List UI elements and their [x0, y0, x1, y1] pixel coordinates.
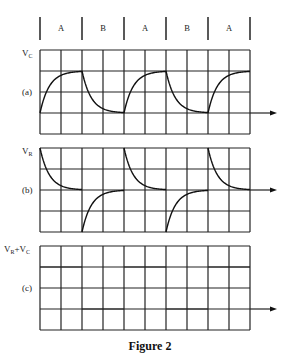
- phase-label-a: A: [58, 23, 65, 33]
- panel-tag: (c): [22, 283, 32, 293]
- arrow-head-icon: [270, 307, 277, 312]
- phase-label-b: B: [100, 23, 106, 33]
- phase-label-b: B: [184, 23, 190, 33]
- panel-b: VR(b): [22, 146, 277, 232]
- figure-caption: Figure 2: [129, 339, 172, 353]
- panel-tag: (a): [22, 87, 32, 97]
- phase-label-a: A: [226, 23, 233, 33]
- phase-bar: ABABA: [40, 17, 250, 40]
- phase-label-a: A: [142, 23, 149, 33]
- y-axis-label: VR+VC: [4, 244, 30, 255]
- figure: ABABAVC(a)VR(b)VR+VC(c)Figure 2: [0, 0, 297, 358]
- arrow-head-icon: [270, 111, 277, 116]
- y-axis-label: VR: [22, 146, 33, 157]
- y-axis-label: VC: [22, 48, 33, 59]
- panel-c: VR+VC(c): [4, 244, 277, 330]
- panel-tag: (b): [22, 185, 33, 195]
- panel-a: VC(a): [22, 48, 277, 134]
- arrow-head-icon: [270, 188, 277, 193]
